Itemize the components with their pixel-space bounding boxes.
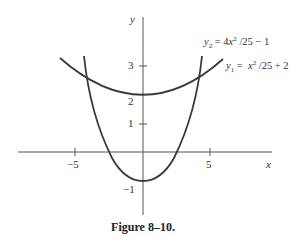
figure-caption: Figure 8–10.	[0, 220, 286, 235]
x-tick-label-m5: −5	[67, 159, 79, 170]
y1-equation-label: y1 = x2 /25 + 2	[226, 61, 289, 72]
y2-equation-label: y2 = 4x2 /25 − 1	[204, 37, 269, 48]
x-axis-label: x	[266, 159, 271, 170]
y-tick-label-1: 1	[128, 118, 134, 129]
y2-eq: = 4	[212, 36, 228, 47]
y-tick-label-2: 2	[128, 96, 134, 107]
y-tick-label-m1: −1	[123, 184, 135, 195]
x-tick-label-5: 5	[206, 159, 212, 170]
y2-rest: /25 − 1	[237, 36, 269, 47]
y1-eq: =	[234, 60, 248, 71]
y-tick-label-3: 3	[128, 60, 134, 71]
y1-rest: /25 + 2	[256, 60, 288, 71]
y-axis-label: y	[130, 14, 135, 25]
